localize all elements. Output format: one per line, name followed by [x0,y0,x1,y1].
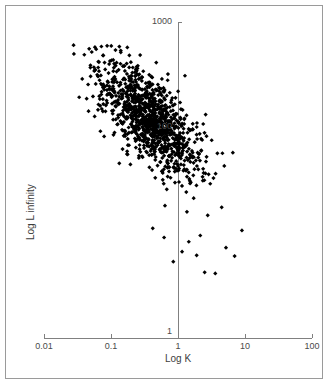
y-axis-title: Log L infinity [26,184,36,240]
data-point [141,69,145,73]
data-point [80,77,84,81]
data-point [102,134,106,138]
data-point [192,196,196,200]
data-point [102,60,106,64]
data-point [184,113,188,117]
data-point [233,254,237,258]
data-point [183,74,187,78]
data-point [113,48,117,52]
data-point [178,100,182,104]
data-point [166,72,170,76]
data-point [138,143,142,147]
data-point [98,129,102,133]
data-point [142,143,146,147]
data-point [187,240,191,244]
data-point [184,190,188,194]
data-point [202,131,206,135]
data-points-layer [71,43,244,275]
y-tick-label-1: 1 [132,327,172,336]
x-tick-label-2: 1 [148,342,208,351]
data-point [200,175,204,179]
x-tick-label-4: 100 [282,342,335,351]
data-point [72,52,76,56]
data-point [127,53,131,57]
data-point [127,65,131,69]
data-point [195,121,199,125]
data-point [88,74,92,78]
data-point [117,161,121,165]
data-point [171,260,175,264]
data-point [98,97,102,101]
data-point [91,94,95,98]
data-point [127,125,131,129]
data-point [206,213,210,217]
data-point [195,137,199,141]
data-point [180,184,184,188]
data-point [107,62,111,66]
data-point [153,158,157,162]
data-point [173,180,177,184]
data-point [168,91,172,95]
data-point [101,53,105,57]
data-point [204,113,208,117]
data-point [211,176,215,180]
data-point [103,67,107,71]
data-point [201,122,205,126]
data-point [125,149,129,153]
data-point [93,114,97,118]
data-point [204,155,208,159]
data-point [120,147,124,151]
data-point [198,233,202,237]
data-point [96,65,100,69]
x-tick-label-1: 0.1 [81,342,141,351]
data-point [96,108,100,112]
data-point [86,82,90,86]
data-point [138,53,142,57]
data-point [115,122,119,126]
data-point [173,96,177,100]
data-point [111,118,115,122]
x-tick-label-3: 10 [215,342,275,351]
data-point [162,182,166,186]
data-point [207,172,211,176]
data-point [134,145,138,149]
data-point [109,44,113,48]
data-point [213,172,217,176]
data-point [191,122,195,126]
x-tick-label-0: 0.01 [14,342,74,351]
data-point [155,164,159,168]
data-point [199,148,203,152]
data-point [180,250,184,254]
data-point [160,77,164,81]
data-point [126,137,130,141]
data-point [125,45,129,49]
data-point [77,95,81,99]
data-point [88,63,92,67]
data-point [191,173,195,177]
data-point [163,204,167,208]
data-point [167,169,171,173]
axes-layer [44,22,312,338]
data-point [220,205,224,209]
data-point [213,271,217,275]
data-point [193,140,197,144]
data-point [71,43,75,47]
data-point [203,270,207,274]
y-tick-label-1000: 1000 [132,17,172,26]
data-point [224,246,228,250]
data-point [151,226,155,230]
data-point [99,44,103,48]
data-point [166,78,170,82]
data-point [111,112,115,116]
data-point [201,167,205,171]
data-point [154,60,158,64]
data-point [204,134,208,138]
scatter-plot-figure: 0.01 0.1 1 10 100 1000 100 1 Log K Log L… [0,0,335,392]
data-point [117,44,121,48]
data-point [106,71,110,75]
data-point [185,210,189,214]
data-point [222,164,226,168]
data-point [153,176,157,180]
data-point [87,47,91,51]
data-point [82,53,86,57]
